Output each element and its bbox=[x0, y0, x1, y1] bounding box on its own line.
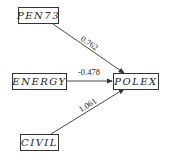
edge-label-energy: -0.478 bbox=[78, 67, 100, 77]
node-pen73: PEN73 bbox=[18, 7, 59, 24]
node-civil: CIVIL bbox=[20, 134, 59, 151]
arrow-civil-polex bbox=[51, 89, 124, 134]
node-energy: ENERGY bbox=[12, 73, 67, 90]
node-polex: POLEX bbox=[113, 73, 159, 90]
